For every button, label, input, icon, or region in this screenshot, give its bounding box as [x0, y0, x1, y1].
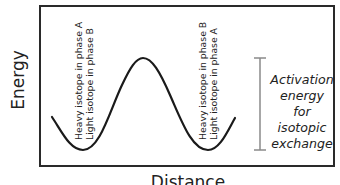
right-well-label: Heavy isotope in phase B Light isotope i… [197, 22, 219, 140]
right-well-line1: Heavy isotope in phase B [197, 22, 208, 140]
activation-line1: Activation [270, 72, 334, 88]
activation-line3: isotopic [270, 120, 334, 136]
activation-energy-label: Activation energy for isotopic exchange [270, 72, 334, 152]
left-well-line2: Light isotope in phase B [84, 22, 95, 140]
activation-energy-bar [254, 58, 266, 150]
right-well-line2: Light isotope in phase A [208, 22, 219, 140]
left-well-line1: Heavy isotope in phase A [73, 22, 84, 140]
activation-line2: energy for [270, 88, 334, 120]
left-well-label: Heavy isotope in phase A Light isotope i… [73, 22, 95, 140]
activation-line4: exchange [270, 136, 334, 152]
